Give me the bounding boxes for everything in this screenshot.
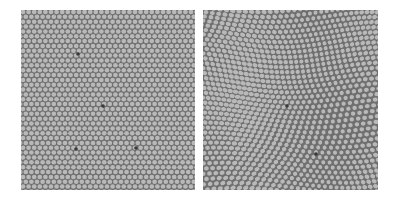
left-lattice-image (21, 10, 195, 190)
regular-lattice-graphic (21, 10, 195, 190)
lattice-defect (285, 104, 289, 108)
lattice-defect (134, 146, 138, 150)
lattice-defect (314, 152, 318, 156)
distorted-lattice-graphic (203, 10, 378, 190)
right-lattice-image (203, 10, 378, 190)
lattice-defect (76, 52, 80, 56)
lattice-defect (101, 104, 105, 108)
lattice-defect (74, 147, 78, 151)
